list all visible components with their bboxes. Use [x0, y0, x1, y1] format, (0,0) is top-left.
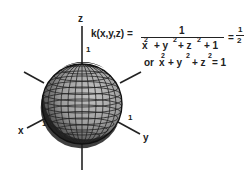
eq-plus-y: + y [168, 58, 182, 68]
y-axis-label: y [143, 133, 149, 143]
denominator-plus-1: + 1 [204, 41, 218, 51]
z-exponent: 2 [197, 36, 201, 43]
z-axis-tick-label: 1 [86, 46, 90, 54]
fraction-bar [141, 37, 224, 38]
result-equals: = [228, 33, 234, 43]
equation-or: or [144, 58, 154, 68]
x-axis-tick-label: 1 [42, 120, 46, 128]
z-axis-label: z [78, 14, 83, 24]
result-numerator: 1 [238, 26, 242, 34]
negative-y-axis [120, 72, 141, 83]
result-denominator: 2 [237, 37, 241, 45]
denominator-plus-z: + z [178, 41, 192, 51]
eq-y-exponent: 2 [186, 52, 190, 59]
sphere-diagram [0, 0, 252, 178]
y-exponent: 2 [173, 36, 177, 43]
formula-lhs: k(x,y,z) = [91, 29, 133, 39]
eq-equals-1: = 1 [212, 58, 226, 68]
denominator-plus-y: + y [154, 41, 168, 51]
sphere [41, 62, 122, 148]
formula-numerator: 1 [179, 26, 185, 36]
denominator-x: x [142, 41, 148, 51]
y-axis-tick-label: 1 [128, 114, 132, 122]
eq-plus-z: + z [192, 58, 206, 68]
x-axis-label: x [18, 126, 24, 136]
negative-x-axis [24, 72, 44, 83]
eq-x: x [159, 58, 165, 68]
y-axis [118, 122, 140, 134]
